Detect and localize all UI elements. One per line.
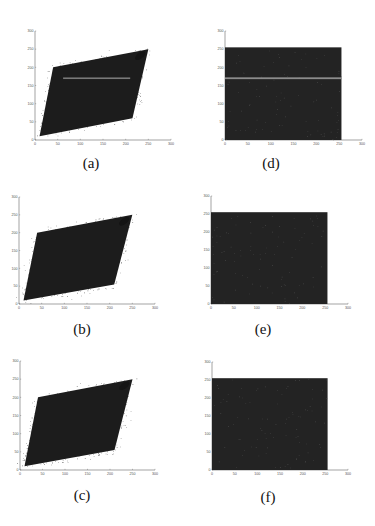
y-tick-label: 150 xyxy=(205,414,211,418)
y-tick-label: 0 xyxy=(209,468,211,472)
filled-square xyxy=(212,378,328,470)
y-tick-label: 100 xyxy=(205,432,211,436)
scatter-plot-f: 005050100100150150200200250250300300 xyxy=(0,0,375,526)
x-tick-label: 300 xyxy=(345,472,351,476)
x-tick-label: 200 xyxy=(300,472,306,476)
x-tick-label: 50 xyxy=(233,472,237,476)
y-tick-label: 50 xyxy=(207,450,211,454)
x-tick-label: 0 xyxy=(211,472,213,476)
y-tick-label: 300 xyxy=(205,360,211,364)
x-tick-label: 100 xyxy=(254,472,260,476)
x-tick-label: 250 xyxy=(322,472,328,476)
caption-f: (f) xyxy=(261,489,276,506)
y-tick-label: 250 xyxy=(205,378,211,382)
y-tick-label: 200 xyxy=(205,396,211,400)
x-tick-label: 150 xyxy=(277,472,283,476)
